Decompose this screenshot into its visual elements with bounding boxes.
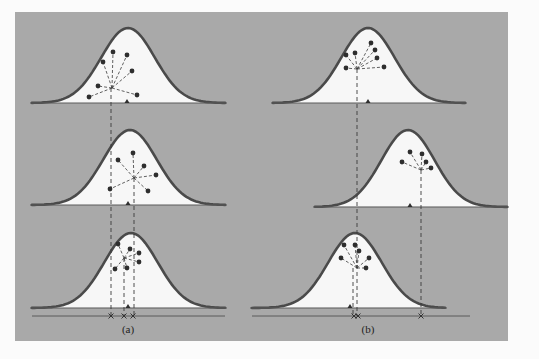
sample-point bbox=[125, 53, 130, 58]
sample-point bbox=[344, 66, 349, 71]
sample-point bbox=[154, 173, 159, 178]
sample-point bbox=[116, 242, 121, 247]
sample-point bbox=[113, 267, 118, 272]
sample-point bbox=[137, 260, 142, 265]
sample-point bbox=[373, 48, 378, 53]
sample-point bbox=[424, 160, 429, 165]
sample-point bbox=[146, 189, 151, 194]
diagram-svg: (a) (b) bbox=[0, 0, 539, 359]
diagram-canvas: (a) (b) bbox=[0, 0, 539, 359]
sample-point bbox=[367, 256, 372, 261]
sample-point bbox=[429, 166, 434, 171]
sample-point bbox=[116, 158, 121, 163]
sample-point bbox=[400, 160, 405, 165]
sample-point bbox=[87, 95, 92, 100]
sample-point bbox=[344, 53, 349, 58]
sample-point bbox=[130, 69, 135, 74]
sample-point bbox=[369, 41, 374, 46]
sample-point bbox=[131, 151, 136, 156]
sample-point bbox=[111, 50, 116, 55]
sample-point bbox=[353, 243, 358, 248]
label-a: (a) bbox=[122, 323, 135, 336]
sample-point bbox=[420, 152, 425, 157]
sample-point bbox=[135, 93, 140, 98]
sample-point bbox=[96, 84, 101, 89]
sample-point bbox=[128, 247, 133, 252]
sample-point bbox=[364, 266, 369, 271]
sample-point bbox=[342, 243, 347, 248]
sample-point bbox=[339, 256, 344, 261]
sample-point bbox=[382, 65, 387, 70]
sample-point bbox=[101, 60, 106, 65]
sample-point bbox=[137, 251, 142, 256]
sample-point bbox=[142, 164, 147, 169]
sample-point bbox=[408, 150, 413, 155]
sample-point bbox=[353, 51, 358, 56]
sample-point bbox=[108, 187, 113, 192]
sample-point bbox=[375, 56, 380, 61]
sample-point bbox=[357, 249, 362, 254]
sample-point bbox=[125, 266, 130, 271]
label-b: (b) bbox=[362, 323, 375, 336]
